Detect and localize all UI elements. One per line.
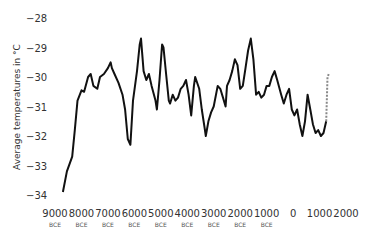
temperature-series-line — [63, 39, 326, 192]
dashed-series-line — [326, 74, 329, 121]
line-chart: Average temperatures in °C −28−29−30−31−… — [0, 0, 369, 242]
plot-area — [0, 0, 369, 242]
